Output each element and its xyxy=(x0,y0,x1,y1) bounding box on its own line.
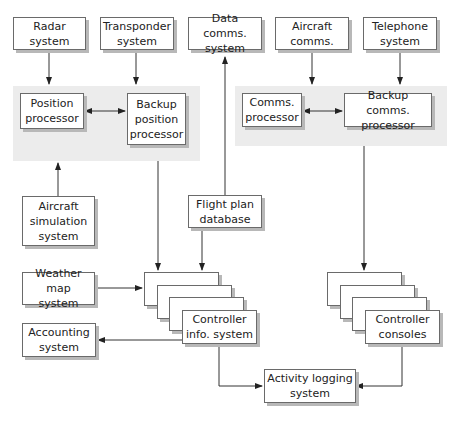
telephone-system-node: Telephone system xyxy=(363,17,437,50)
position-processor-node: Position processor xyxy=(20,93,84,129)
transponder-system-node: Transponder system xyxy=(100,17,174,50)
data-comms-system-node: Data comms. system xyxy=(188,17,262,50)
backup-comms-processor-node: Backup comms. processor xyxy=(344,93,432,127)
controller-info-system-node: Controller info. system xyxy=(182,310,257,344)
accounting-system-node: Accounting system xyxy=(22,323,96,357)
activity-logging-system-node: Activity logging system xyxy=(264,369,356,403)
comms-processor-node: Comms. processor xyxy=(242,93,302,127)
backup-position-processor-node: Backup position processor xyxy=(127,93,186,145)
aircraft-simulation-system-node: Aircraft simulation system xyxy=(22,196,95,246)
weather-map-system-node: Weather map system xyxy=(22,272,95,305)
controller-consoles-node: Controller consoles xyxy=(365,310,440,344)
flight-plan-database-node: Flight plan database xyxy=(188,195,262,228)
aircraft-comms-node: Aircraft comms. xyxy=(275,17,349,50)
radar-system-node: Radar system xyxy=(13,17,86,50)
